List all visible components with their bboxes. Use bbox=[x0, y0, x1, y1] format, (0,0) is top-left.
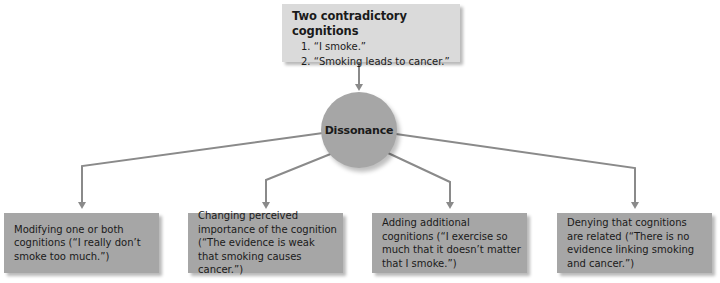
dissonance-label: Dissonance bbox=[325, 124, 394, 137]
strategy-box-adding-cognitions: Adding additional cognitions (“I exercis… bbox=[372, 213, 527, 273]
strategy-text: Denying that cognitions are related (“Th… bbox=[567, 216, 706, 270]
strategy-text: Adding additional cognitions (“I exercis… bbox=[382, 216, 521, 270]
strategy-box-changing-importance: Changing perceived importance of the cog… bbox=[188, 213, 343, 273]
strategy-box-denying-relation: Denying that cognitions are related (“Th… bbox=[557, 213, 712, 273]
cognitions-title: Two contradictory cognitions bbox=[292, 9, 460, 39]
dissonance-node: Dissonance bbox=[321, 92, 397, 168]
cognition-item: 1. “I smoke.” bbox=[292, 39, 460, 54]
strategy-text: Changing perceived importance of the cog… bbox=[198, 209, 337, 277]
cognition-item: 2. “Smoking leads to cancer.” bbox=[292, 54, 460, 69]
arrow-to-strategy-4 bbox=[396, 134, 635, 204]
arrow-to-strategy-3 bbox=[388, 153, 450, 204]
arrow-to-strategy-2 bbox=[266, 153, 333, 204]
strategy-box-modifying: Modifying one or both cognitions (“I rea… bbox=[4, 213, 159, 273]
arrow-to-strategy-1 bbox=[82, 133, 323, 204]
strategy-text: Modifying one or both cognitions (“I rea… bbox=[14, 223, 153, 264]
contradictory-cognitions-box: Two contradictory cognitions 1. “I smoke… bbox=[282, 4, 460, 62]
